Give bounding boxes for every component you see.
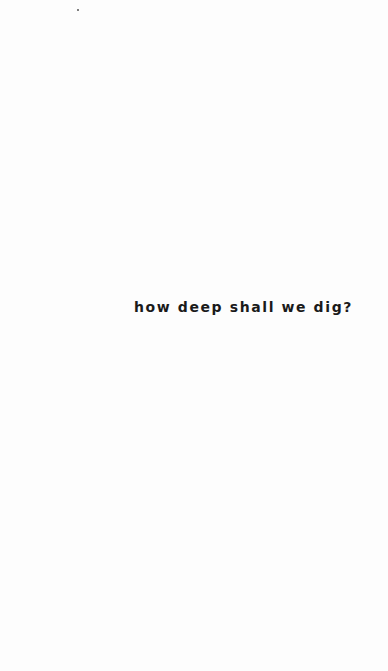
page-headline: how deep shall we dig? xyxy=(134,298,353,316)
ink-speck xyxy=(77,9,79,11)
book-page: how deep shall we dig? xyxy=(0,0,388,671)
